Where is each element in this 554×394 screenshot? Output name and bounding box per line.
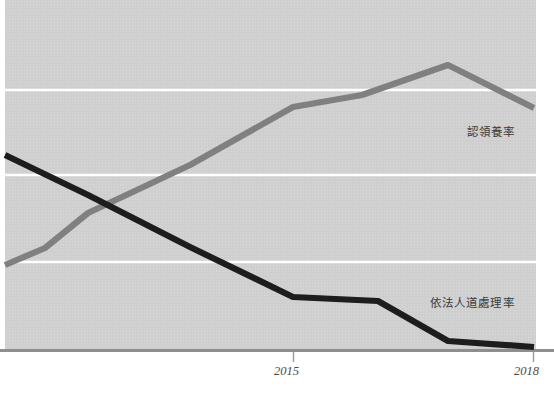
line-chart: 認領養率 依法人道處理率 2015 2018	[0, 0, 554, 394]
chart-canvas	[0, 0, 554, 394]
series-line-adoption-rate	[5, 65, 534, 265]
series-label-euthanasia-rate: 依法人道處理率	[430, 298, 515, 310]
series-line-euthanasia-rate	[5, 155, 534, 347]
x-axis-tick-label-2015: 2015	[274, 365, 299, 378]
x-axis-tick-label-2018: 2018	[514, 365, 539, 378]
x-axis-ticks	[294, 352, 534, 362]
gridlines	[5, 90, 536, 262]
series-label-adoption-rate: 認領養率	[467, 127, 515, 139]
